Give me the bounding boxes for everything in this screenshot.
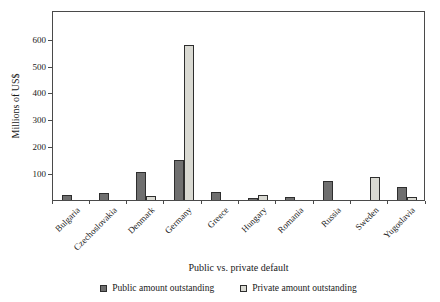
y-tick-label: 300	[16, 116, 46, 125]
y-tick-mark	[48, 174, 52, 175]
bar-hungary-private	[258, 195, 268, 200]
plot-area	[52, 11, 425, 201]
x-category-label: Greece	[206, 205, 231, 230]
x-category-label: Bulgaria	[53, 205, 82, 234]
y-tick-mark	[48, 147, 52, 148]
bar-czechoslovakia-public	[99, 193, 109, 200]
legend-swatch-icon	[100, 285, 107, 292]
x-category-label: Sweden	[353, 205, 380, 232]
x-category-label: Denmark	[126, 205, 157, 236]
legend-label: Public amount outstanding	[112, 283, 214, 293]
bar-sweden-private	[370, 177, 380, 200]
y-tick-mark	[48, 93, 52, 94]
legend-item: Public amount outstanding	[100, 283, 214, 293]
bar-germany-public	[174, 160, 184, 200]
bar-bulgaria-public	[62, 195, 72, 200]
legend-label: Private amount outstanding	[252, 283, 357, 293]
x-category-label: Hungary	[239, 205, 268, 234]
bar-yugoslavia-public	[397, 187, 407, 200]
y-tick-label: 100	[16, 170, 46, 179]
y-tick-mark	[48, 67, 52, 68]
bar-denmark-private	[146, 196, 156, 200]
x-axis-title: Public vs. private default	[52, 262, 425, 273]
y-tick-mark	[48, 40, 52, 41]
bar-greece-public	[211, 192, 221, 200]
y-tick-mark	[48, 120, 52, 121]
bar-chart-figure: Millions of US$ Public vs. private defau…	[0, 0, 440, 302]
x-category-label: Germany	[163, 205, 194, 236]
x-tick-mark	[350, 201, 351, 204]
x-category-label: Russia	[319, 205, 343, 229]
x-category-label: Yugoslavia	[382, 205, 417, 240]
y-tick-label: 400	[16, 89, 46, 98]
bar-russia-public	[323, 181, 333, 200]
bar-romania-public	[285, 197, 295, 200]
x-tick-mark	[313, 201, 314, 204]
bar-yugoslavia-private	[407, 197, 417, 200]
x-tick-mark	[126, 201, 127, 204]
y-tick-label: 600	[16, 36, 46, 45]
x-tick-mark	[275, 201, 276, 204]
x-tick-mark	[52, 201, 53, 204]
bar-hungary-public	[248, 198, 258, 200]
x-tick-mark	[201, 201, 202, 204]
x-tick-mark	[89, 201, 90, 204]
y-axis-title-text: Millions of US$	[10, 73, 21, 138]
bar-denmark-public	[136, 172, 146, 200]
y-tick-label: 500	[16, 63, 46, 72]
x-tick-mark	[387, 201, 388, 204]
bar-germany-private	[184, 45, 194, 200]
x-category-label: Romania	[275, 205, 305, 235]
legend-swatch-icon	[240, 285, 247, 292]
legend-item: Private amount outstanding	[240, 283, 357, 293]
y-tick-label: 200	[16, 143, 46, 152]
x-tick-mark	[163, 201, 164, 204]
legend: Public amount outstandingPrivate amount …	[42, 283, 415, 293]
x-tick-mark	[238, 201, 239, 204]
x-tick-mark	[425, 201, 426, 204]
